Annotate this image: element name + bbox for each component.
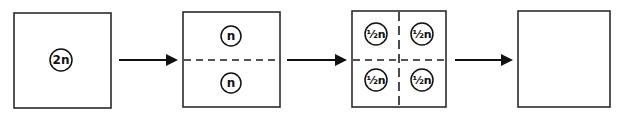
empty-cell-box <box>518 11 610 107</box>
stage-3-cell: ½n ½n ½n ½n <box>352 11 446 107</box>
ploidy-label: n <box>227 29 236 43</box>
arrow-right-icon <box>119 54 178 66</box>
chromosome-set-n-top: n <box>221 26 241 46</box>
stage-2-cell: n n <box>183 12 280 107</box>
arrow-right-icon <box>455 54 513 66</box>
ploidy-label: ½n <box>366 28 385 41</box>
chromosome-set-half-n-bottom-right: ½n <box>411 69 433 91</box>
chromosome-set-half-n-top-right: ½n <box>411 23 433 45</box>
stage-1-cell: 2n <box>14 13 111 108</box>
ploidy-label: ½n <box>366 74 385 87</box>
stage-4-cell <box>518 11 610 107</box>
ploidy-label: n <box>227 76 236 90</box>
chromosome-set-n-bottom: n <box>221 73 241 93</box>
chromosome-set-2n: 2n <box>50 49 72 71</box>
ploidy-label: ½n <box>412 28 431 41</box>
ploidy-label: ½n <box>412 74 431 87</box>
ploidy-label: 2n <box>53 53 70 67</box>
diagram-canvas: 2n n n ½n ½n <box>0 0 621 113</box>
arrow-right-icon <box>287 54 347 66</box>
chromosome-set-half-n-bottom-left: ½n <box>365 69 387 91</box>
chromosome-set-half-n-top-left: ½n <box>365 23 387 45</box>
